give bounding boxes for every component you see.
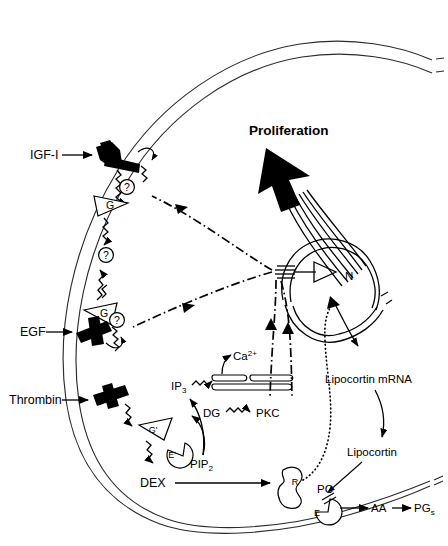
glucocorticoid-receptor: R (278, 467, 302, 508)
nucleus (282, 239, 392, 342)
igf1-signal-squiggle-right (141, 166, 147, 182)
egf-label: EGF (20, 325, 46, 339)
thrombin-signal-squiggle (125, 404, 132, 426)
svg-text:E': E' (168, 450, 176, 460)
endoplasmic-reticulum-calcium-store (212, 375, 293, 390)
svg-text:G: G (106, 199, 114, 211)
igf1-label: IGF-I (30, 148, 58, 162)
svg-text:?: ? (114, 314, 120, 326)
aa-label: AA (371, 502, 387, 514)
unknown-mediator-3: ? (110, 313, 125, 328)
calcium-label: Ca2+ (233, 349, 257, 362)
g-prime-protein: G' (139, 418, 172, 440)
dex-label: DEX (140, 476, 166, 490)
g-protein-1: G (94, 196, 128, 216)
dg-to-pkc-squiggle (226, 408, 250, 412)
svg-text:?: ? (103, 249, 109, 261)
g-prime-out-squiggle (146, 441, 153, 463)
pkc-label: PKC (256, 407, 280, 419)
lipocortin-inhibition-arrow (328, 462, 362, 492)
svg-text:E: E (314, 508, 320, 518)
pc-label: PC (317, 483, 333, 495)
lipocortin-label: Lipocortin (347, 446, 397, 458)
svg-text:?: ? (124, 181, 130, 193)
signaling-pathway-figure: IGF-I ? G ? (0, 0, 448, 546)
plasma-membrane (63, 41, 444, 533)
proliferation-label: Proliferation (249, 123, 329, 138)
signal-lines-to-nucleus (133, 196, 294, 398)
pip2-label: PIP2 (190, 458, 214, 473)
nucleus-pointer (294, 262, 336, 282)
g-protein-2-in-squiggle (102, 285, 107, 298)
translation-arrow (375, 390, 384, 437)
thrombin-label: Thrombin (9, 393, 62, 407)
dg-label: DG (203, 407, 220, 419)
proliferation-arrow (258, 148, 366, 286)
svg-text:R: R (292, 477, 299, 487)
igf1-receptor (96, 140, 154, 173)
receptor-to-nucleus-dotted-path (303, 296, 340, 480)
svg-text:G: G (100, 307, 108, 319)
pg-label: PGs (414, 502, 435, 517)
phospholipase-a2-enzyme: E (314, 499, 342, 525)
thrombin-receptor (93, 383, 129, 409)
ip3-label: IP3 (171, 380, 187, 395)
ip3-to-er-squiggle (192, 381, 212, 385)
calcium-release-arrow (222, 355, 231, 374)
lipocortin-mrna-label: Lipocortin mRNA (325, 373, 412, 385)
unknown-mediator-2: ? (99, 248, 114, 263)
g-protein-2-out-squiggle (97, 270, 104, 300)
unknown-mediator-1: ? (120, 180, 135, 195)
svg-text:G': G' (149, 425, 158, 435)
